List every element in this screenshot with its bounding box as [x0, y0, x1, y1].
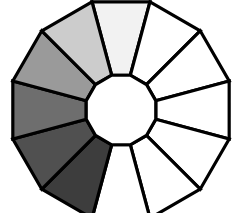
center-hub: [86, 75, 156, 145]
ring-diagram-figure: [0, 0, 239, 213]
ring-diagram-canvas: [0, 0, 239, 213]
